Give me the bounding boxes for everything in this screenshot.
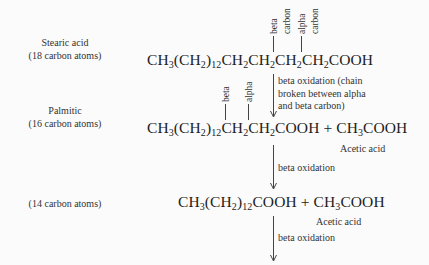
- arrow-3-caption: beta oxidation: [278, 232, 335, 245]
- myristic-acid-formula: CH3(CH2)12COOH + CH3COOH: [178, 193, 385, 211]
- acetic-acid-label: Acetic acid: [340, 143, 385, 156]
- alpha-carbon-marker: [248, 104, 249, 120]
- arrow-2-caption: beta oxidation: [278, 162, 335, 175]
- arrow-1-caption: beta oxidation (chain broken between alp…: [278, 75, 366, 113]
- acetic-acid-label: Acetic acid: [316, 216, 361, 229]
- beta-label: beta: [221, 86, 231, 102]
- carbon-count: (14 carbon atoms): [20, 197, 110, 210]
- palmitic-acid-formula: CH3(CH2)12CH2CH2COOH + CH3COOH: [147, 119, 407, 137]
- palmitic-acid-label: Palmitic (16 carbon atoms): [20, 104, 110, 130]
- alpha-label: alpha: [244, 81, 254, 102]
- compound-name: Palmitic: [20, 104, 110, 117]
- myristic-acid-label: (14 carbon atoms): [20, 197, 110, 210]
- carbon-count: (16 carbon atoms): [20, 117, 110, 130]
- beta-carbon-marker: [225, 104, 226, 120]
